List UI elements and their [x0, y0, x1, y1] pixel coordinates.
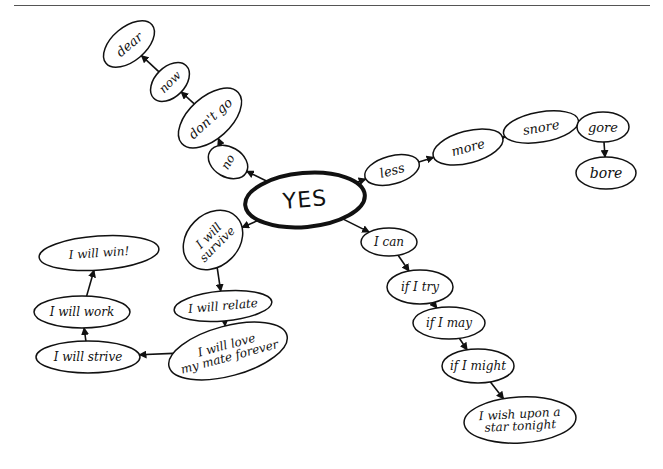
nodes-layer [34, 12, 636, 446]
edge-arrow-now-to-dear [142, 56, 160, 72]
node-label-strive: I will strive [36, 341, 140, 373]
edge-arrow-work-to-win [87, 270, 94, 296]
edge-arrow-if-i-might-to-wish [490, 382, 503, 399]
node-label-if-i-might: if I might [442, 349, 514, 383]
node-label-yes: YES [243, 168, 367, 232]
node-label-work: I will work [34, 296, 130, 328]
node-label-if-i-try: if I try [387, 270, 453, 304]
node-label-gore: gore [577, 112, 629, 142]
node-label-i-can: I can [361, 228, 417, 256]
edge-arrow-strive-to-work [84, 328, 86, 341]
node-label-if-i-may: if I may [413, 307, 485, 339]
edge-arrow-dont-go-to-now [181, 92, 194, 104]
edge-arrow-less-to-more [419, 157, 434, 162]
node-label-wish: I wish upon a star tonight [463, 394, 577, 446]
edge-arrow-gore-to-bore [604, 142, 605, 157]
edge-arrow-i-can-to-if-i-try [398, 255, 409, 271]
node-label-bore: bore [576, 157, 636, 189]
